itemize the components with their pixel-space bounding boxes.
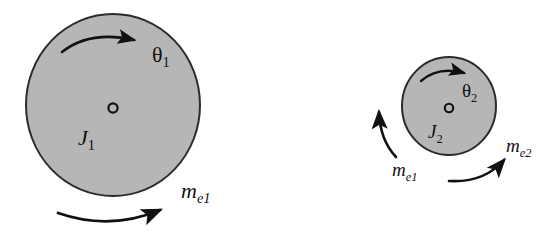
theta-1-symbol: θ (152, 42, 163, 67)
rotor-2-me2-force-arrow (449, 160, 504, 181)
rotor-1-disc (26, 14, 200, 196)
label-me2-rotor-2: me2 (506, 136, 532, 159)
label-theta-2: θ2 (462, 81, 477, 104)
me1-rotor-1-subscript: e1 (197, 190, 211, 206)
me2-subscript: e2 (520, 146, 532, 160)
label-theta-1: θ1 (152, 44, 170, 70)
me1-rotor-1-symbol: m (181, 178, 197, 203)
me1-rotor-2-subscript: e1 (406, 170, 418, 184)
j-2-subscript: 2 (436, 132, 442, 146)
label-me1-rotor-2: me1 (392, 160, 418, 183)
label-j-1: J1 (78, 127, 95, 153)
rotor-diagram-figure: θ1 J1 me1 θ2 J2 me1 me2 (0, 0, 560, 237)
me1-rotor-2-symbol: m (392, 159, 406, 180)
j-1-subscript: 1 (88, 137, 95, 153)
theta-2-subscript: 2 (471, 91, 477, 105)
me2-symbol: m (506, 135, 520, 156)
theta-2-symbol: θ (462, 80, 471, 101)
diagram-canvas (0, 0, 560, 237)
label-j-2: J2 (428, 122, 443, 145)
theta-1-subscript: 1 (163, 54, 170, 70)
rotor-2-me1-force-arrow (379, 112, 396, 157)
rotor-1-force-arc (58, 210, 160, 221)
label-me1-rotor-1: me1 (181, 180, 211, 206)
rotor-1-group (26, 14, 200, 221)
j-1-symbol: J (78, 125, 88, 150)
